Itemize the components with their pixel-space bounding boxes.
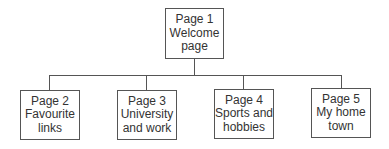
node-label-line: and work	[123, 122, 172, 136]
node-page2-favourite-links: Page 2 Favourite links	[20, 90, 80, 140]
connector-page5	[341, 75, 342, 88]
node-title: Page 1	[175, 13, 213, 27]
node-label-line: My home	[316, 106, 365, 120]
node-label-line: town	[328, 120, 353, 134]
connector-page4	[243, 75, 244, 89]
node-label-line: University	[121, 108, 174, 122]
node-page5-my-home-town: Page 5 My home town	[311, 88, 371, 138]
connector-page2	[49, 75, 50, 90]
node-page3-university-and-work: Page 3 University and work	[117, 90, 177, 140]
node-label-line: links	[38, 122, 62, 136]
node-label-line: Sports and	[215, 107, 273, 121]
node-page1-welcome: Page 1 Welcome page	[165, 8, 224, 59]
node-title: Page 5	[322, 93, 360, 107]
node-label-line: page	[181, 40, 208, 54]
node-label-line: Welcome	[170, 27, 220, 41]
node-title: Page 4	[225, 94, 263, 108]
node-page4-sports-and-hobbies: Page 4 Sports and hobbies	[214, 89, 274, 139]
node-title: Page 2	[31, 95, 69, 109]
node-title: Page 3	[128, 95, 166, 109]
node-label-line: Favourite	[25, 108, 75, 122]
node-label-line: hobbies	[223, 121, 265, 135]
connector-page3	[146, 75, 147, 90]
site-map-diagram: Page 1 Welcome page Page 2 Favourite lin…	[0, 0, 389, 149]
connector-root-vertical	[194, 58, 195, 75]
connector-horizontal-bus	[49, 75, 342, 76]
